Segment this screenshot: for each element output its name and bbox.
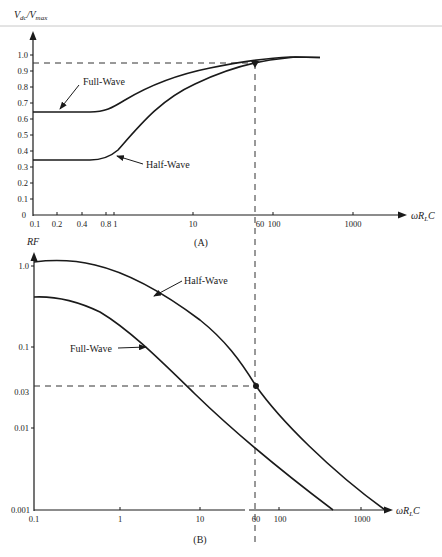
svg-text:1000: 1000 — [354, 514, 371, 524]
svg-text:0.9: 0.9 — [17, 66, 28, 76]
chart-b: RF ωRLC 1.0 0.1 0.03 0.01 0.001 0.1 1 10… — [11, 236, 420, 546]
svg-text:0.2: 0.2 — [52, 219, 63, 229]
svg-text:0.001: 0.001 — [11, 505, 30, 515]
svg-text:60: 60 — [256, 219, 265, 229]
chart-b-half-wave-curve — [34, 260, 385, 510]
svg-text:1: 1 — [118, 514, 122, 524]
svg-text:0.4: 0.4 — [77, 219, 88, 229]
svg-text:0.8: 0.8 — [17, 82, 28, 92]
panel-b-caption: (B) — [193, 534, 206, 546]
chart-a-x-tick-labels: 0.1 0.2 0.4 0.8 1 10 60 100 1000 — [30, 219, 362, 229]
chart-b-half-wave-pointer — [154, 281, 182, 296]
chart-b-y-tick-labels: 1.0 0.1 0.03 0.01 0.001 — [11, 261, 30, 515]
panel-a-caption: (A) — [194, 237, 208, 249]
chart-a-x-arrow-icon — [398, 212, 407, 219]
chart-b-xlabel: ωRLC — [396, 505, 420, 518]
chart-a-half-wave-curve — [33, 57, 320, 160]
chart-b-x-tick-labels: 0.1 1 10 60 100 1000 — [29, 514, 371, 524]
chart-b-full-wave-curve — [34, 297, 333, 510]
chart-b-y-arrow-icon — [31, 252, 38, 261]
svg-text:100: 100 — [268, 219, 281, 229]
chart-a-full-wave-curve — [33, 57, 320, 112]
svg-text:100: 100 — [274, 514, 287, 524]
chart-a-xlabel: ωRLC — [411, 210, 435, 223]
svg-text:0.2: 0.2 — [17, 178, 28, 188]
svg-text:60: 60 — [252, 514, 261, 524]
svg-text:10: 10 — [196, 514, 205, 524]
svg-text:0.1: 0.1 — [30, 219, 41, 229]
svg-text:1000: 1000 — [345, 219, 362, 229]
chart-b-half-wave-label: Half-Wave — [184, 275, 228, 286]
chart-b-marker-point — [253, 383, 259, 389]
chart-a-y-tick-labels: 1.0 0.9 0.8 0.7 0.6 0.5 0.4 0.3 0.2 0.1 … — [17, 50, 28, 220]
chart-a-half-wave-pointer — [117, 156, 143, 164]
svg-text:0.8 1: 0.8 1 — [101, 219, 118, 229]
svg-text:0.6: 0.6 — [17, 114, 28, 124]
svg-text:0.1: 0.1 — [29, 514, 40, 524]
chart-b-x-arrow-icon — [384, 507, 393, 514]
chart-b-full-wave-pointer — [118, 347, 146, 348]
svg-text:0.4: 0.4 — [17, 146, 28, 156]
svg-text:0.7: 0.7 — [17, 98, 28, 108]
svg-text:1.0: 1.0 — [18, 261, 29, 271]
chart-b-full-wave-label: Full-Wave — [70, 343, 113, 354]
rectifier-charts: Vdc/Vmax ωRLC 1.0 0.9 0.8 0.7 0.6 0.5 0.… — [0, 0, 442, 557]
svg-text:10: 10 — [189, 219, 198, 229]
svg-text:0.3: 0.3 — [17, 162, 28, 172]
chart-a-full-wave-label: Full-Wave — [83, 76, 126, 87]
svg-text:0.1: 0.1 — [17, 194, 28, 204]
chart-a-half-wave-label: Half-Wave — [146, 159, 190, 170]
svg-text:0.1: 0.1 — [18, 342, 29, 352]
svg-text:0.01: 0.01 — [14, 423, 29, 433]
chart-a-full-wave-pointer — [60, 85, 79, 109]
chart-b-ylabel: RF — [26, 236, 40, 247]
svg-text:0.03: 0.03 — [14, 387, 29, 397]
chart-a-ylabel: Vdc/Vmax — [14, 9, 48, 22]
svg-text:0.5: 0.5 — [17, 130, 28, 140]
svg-text:1.0: 1.0 — [17, 50, 28, 60]
chart-a-marker-point — [251, 61, 259, 68]
chart-a-y-arrow-icon — [30, 31, 37, 40]
svg-text:0: 0 — [22, 210, 26, 220]
